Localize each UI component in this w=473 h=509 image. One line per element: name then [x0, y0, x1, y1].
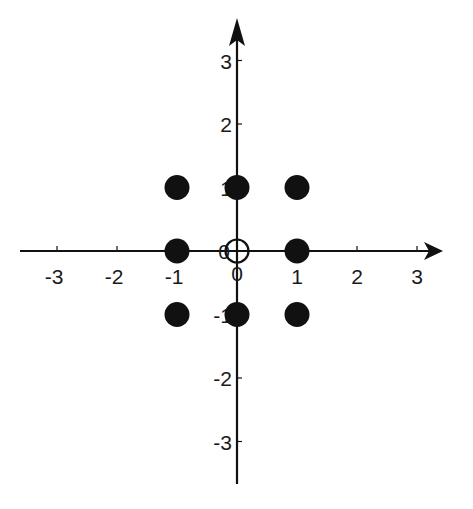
- plot-canvas: -3-2-11230-3-2-11230: [0, 0, 473, 509]
- x-tick-label: -1: [165, 265, 184, 288]
- y-tick-label: -2: [213, 367, 232, 390]
- filled-point: [165, 175, 190, 200]
- filled-point: [225, 302, 250, 327]
- y-tick-label: 3: [220, 50, 232, 73]
- x-zero-label: 0: [231, 262, 243, 285]
- constellation-diagram: -3-2-11230-3-2-11230: [0, 0, 473, 509]
- x-tick-label: 3: [411, 265, 423, 288]
- filled-point: [165, 302, 190, 327]
- filled-point: [285, 175, 310, 200]
- x-tick-label: -2: [105, 265, 124, 288]
- y-tick-label: 2: [220, 113, 232, 136]
- filled-point: [165, 239, 190, 264]
- axes: [20, 18, 443, 484]
- x-tick-label: -3: [45, 265, 64, 288]
- filled-point: [285, 239, 310, 264]
- filled-point: [285, 302, 310, 327]
- filled-point: [225, 175, 250, 200]
- x-tick-label: 2: [351, 265, 363, 288]
- x-tick-label: 1: [291, 265, 303, 288]
- y-tick-label: -3: [213, 431, 232, 454]
